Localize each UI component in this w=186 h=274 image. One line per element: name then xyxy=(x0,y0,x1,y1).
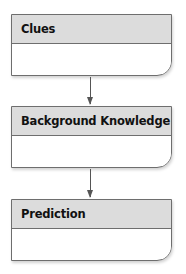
background-knowledge-title: Background Knowledge xyxy=(21,114,170,128)
clues-title: Clues xyxy=(21,22,55,36)
prediction-title: Prediction xyxy=(21,207,85,221)
arrow-down-icon xyxy=(90,77,91,104)
background-knowledge-box-body[interactable] xyxy=(12,136,171,166)
clues-box: Clues xyxy=(11,14,172,76)
background-knowledge-box-header: Background Knowledge xyxy=(12,107,171,136)
background-knowledge-box: Background Knowledge xyxy=(11,106,172,168)
clues-box-body[interactable] xyxy=(12,44,171,74)
clues-box-header: Clues xyxy=(12,15,171,44)
prediction-box-header: Prediction xyxy=(12,200,171,229)
prediction-box-body[interactable] xyxy=(12,229,171,259)
arrow-down-icon xyxy=(90,169,91,197)
prediction-box: Prediction xyxy=(11,199,172,261)
